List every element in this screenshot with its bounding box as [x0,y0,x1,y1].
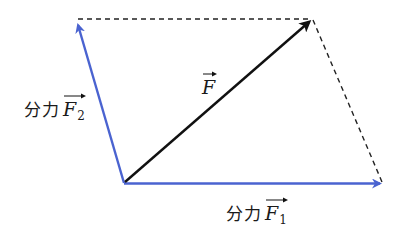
f1-label: 分力F1 [226,204,287,223]
f2-label: 分力F2 [24,100,85,119]
vector-symbol-f: F [202,78,215,97]
f2-label-prefix: 分力 [24,100,60,120]
vector-symbol-f1: F1 [265,204,287,223]
force-parallelogram-diagram [0,0,405,249]
vector-arrow-icon [64,93,86,99]
vector-arrow-icon [203,71,217,77]
resultant-label: F [199,78,215,97]
dashed-right-edge [313,20,382,182]
vector-f2-arrow [78,25,124,183]
vector-resultant-arrow [125,22,309,182]
f1-label-prefix: 分力 [226,204,262,224]
vector-symbol-f2: F2 [63,100,85,119]
vector-arrow-icon [266,197,288,203]
